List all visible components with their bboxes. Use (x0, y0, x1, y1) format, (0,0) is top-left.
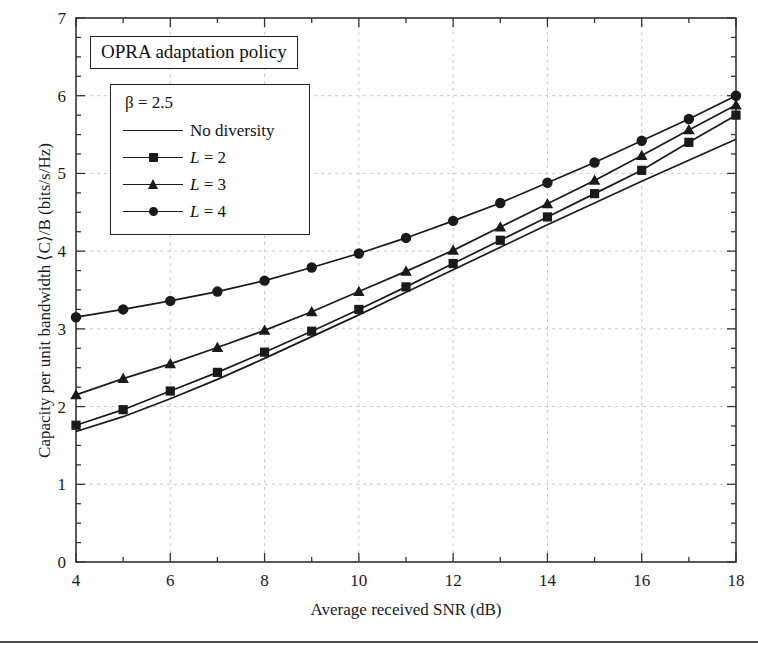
legend-label-l2: L = 2 (190, 148, 226, 168)
chart-title: OPRA adaptation policy (101, 41, 287, 62)
svg-text:6: 6 (166, 571, 175, 590)
legend-item-l4[interactable]: L = 4 (123, 198, 299, 225)
legend-swatch-line (123, 124, 183, 138)
x-axis-label-wrapper: Average received SNR (dB) (76, 600, 736, 620)
chart-figure: 468101214161801234567 Capacity per unit … (0, 0, 758, 650)
legend-label-no-diversity: No diversity (190, 121, 275, 141)
legend-l2-value: = 2 (199, 148, 226, 167)
svg-text:12: 12 (445, 571, 462, 590)
page-bottom-rule (0, 641, 758, 643)
svg-text:4: 4 (58, 242, 67, 261)
legend-box: β = 2.5 No diversity L = 2 L = 3 L = 4 (110, 84, 310, 235)
x-axis-label: Average received SNR (dB) (311, 600, 502, 619)
svg-text:7: 7 (58, 9, 67, 28)
legend-swatch-triangle-marker (123, 178, 183, 192)
legend-swatch-circle-marker (123, 205, 183, 219)
chart-title-box: OPRA adaptation policy (90, 36, 298, 69)
legend-l4-value: = 4 (199, 202, 226, 221)
legend-l3-value: = 3 (199, 175, 226, 194)
svg-text:10: 10 (350, 571, 367, 590)
legend-item-l3[interactable]: L = 3 (123, 171, 299, 198)
svg-text:18: 18 (728, 571, 745, 590)
svg-text:4: 4 (72, 571, 81, 590)
legend-label-l4: L = 4 (190, 202, 226, 222)
svg-text:2: 2 (58, 398, 67, 417)
legend-label-l3: L = 3 (190, 175, 226, 195)
svg-text:6: 6 (58, 87, 67, 106)
svg-text:0: 0 (58, 553, 67, 572)
svg-text:14: 14 (539, 571, 557, 590)
svg-text:1: 1 (58, 475, 67, 494)
svg-text:16: 16 (633, 571, 650, 590)
legend-beta-annotation: β = 2.5 (125, 93, 299, 113)
svg-text:3: 3 (58, 320, 67, 339)
legend-item-l2[interactable]: L = 2 (123, 144, 299, 171)
legend-swatch-square-marker (123, 151, 183, 165)
svg-text:8: 8 (260, 571, 269, 590)
legend-item-no-diversity[interactable]: No diversity (123, 117, 299, 144)
svg-text:5: 5 (58, 164, 67, 183)
